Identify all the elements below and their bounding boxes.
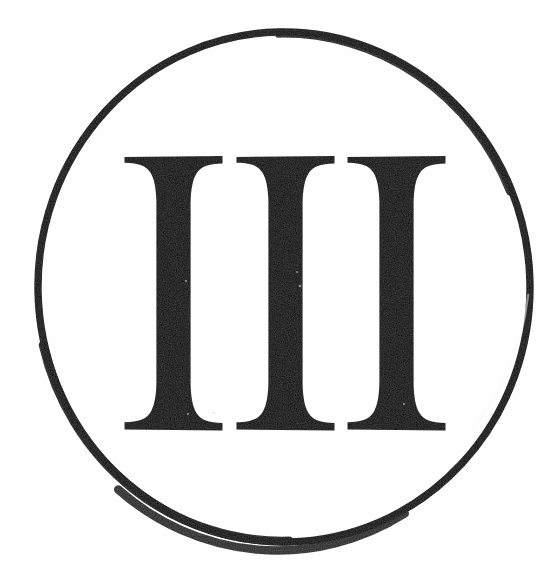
trademark-logo-graphic xyxy=(0,0,555,588)
numeral-III xyxy=(125,156,446,431)
logo-canvas: III inside a circle xyxy=(0,0,555,588)
